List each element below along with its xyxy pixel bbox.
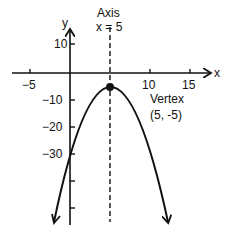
- parabola-chart: y x Axis x = 5 Vertex (5, -5) −5 10 15 1…: [0, 0, 231, 234]
- tick-label-y: −30: [42, 147, 63, 161]
- vertex-title: Vertex: [150, 92, 184, 106]
- axis-equation: x = 5: [96, 20, 123, 34]
- x-axis-label: x: [214, 66, 220, 80]
- tick-label-x: −5: [22, 78, 36, 92]
- parabola-left-arrow: [54, 87, 110, 222]
- y-axis-label: y: [62, 16, 68, 30]
- tick-label-y: −20: [42, 120, 63, 134]
- vertex-coords: (5, -5): [150, 108, 182, 122]
- vertex-point: [106, 83, 114, 91]
- tick-label-y: 10: [54, 37, 68, 51]
- tick-label-x: 10: [142, 78, 156, 92]
- axis-title: Axis: [97, 6, 120, 20]
- tick-label-x: 15: [182, 78, 196, 92]
- tick-label-y: −10: [42, 93, 63, 107]
